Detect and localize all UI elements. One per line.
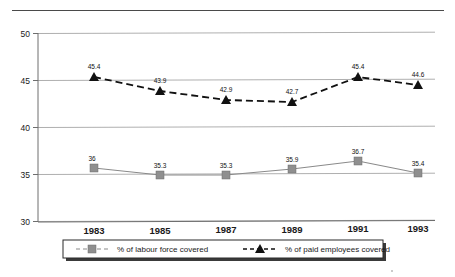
series-paid-marker-1983 [89, 72, 99, 81]
gridline-40 [38, 126, 435, 127]
x-tick-label-1983: 1983 [83, 225, 104, 236]
series-paid-employees-line [94, 77, 418, 102]
y-tick-label-45: 45 [21, 76, 31, 86]
series-labour-label-1991: 36.7 [352, 148, 365, 155]
gridlines-group [38, 32, 435, 221]
series-paid-label-1989: 42.7 [286, 88, 299, 95]
series-labour-marker-1991 [354, 157, 362, 165]
gridline-50 [38, 32, 435, 33]
series-paid-employees: 45.4 43.9 42.9 42.7 45.4 44.6 [88, 63, 425, 106]
legend-square-marker-icon [88, 245, 96, 253]
series-paid-marker-1993 [413, 80, 423, 89]
line-chart-canvas: 50 45 40 35 30 1983 1985 1987 1989 1991 … [0, 0, 455, 277]
y-tick-labels-group: 50 45 40 35 30 [21, 29, 31, 227]
chart-figure: 50 45 40 35 30 1983 1985 1987 1989 1991 … [0, 0, 455, 277]
series-labour-marker-1985 [156, 171, 164, 179]
y-tick-label-35: 35 [21, 170, 31, 180]
series-paid-label-1993: 44.6 [412, 71, 425, 78]
series-labour-marker-1993 [414, 169, 422, 177]
chart-legend: % of labour force covered % of paid empl… [63, 240, 390, 261]
legend-label-labour-force: % of labour force covered [117, 245, 208, 254]
x-tick-label-1989: 1989 [281, 224, 302, 235]
y-tick-label-40: 40 [21, 123, 31, 133]
series-labour-marker-1989 [288, 165, 296, 173]
y-tick-label-50: 50 [21, 29, 31, 39]
series-labour-label-1987: 35.3 [220, 162, 233, 169]
series-labour-label-1993: 35.4 [412, 160, 425, 167]
series-labour-marker-1987 [222, 171, 230, 179]
header-divider-rule [12, 10, 444, 11]
series-paid-label-1991: 45.4 [352, 63, 365, 70]
x-tick-label-1993: 1993 [407, 223, 428, 234]
y-tick-label-30: 30 [21, 217, 31, 227]
series-paid-label-1983: 45.4 [88, 63, 101, 70]
x-tick-label-1985: 1985 [149, 225, 171, 236]
legend-label-paid-employees: % of paid employees covered [285, 245, 390, 254]
series-labour-force-line [94, 161, 418, 175]
x-tick-label-1987: 1987 [215, 224, 236, 235]
series-labour-label-1985: 35.3 [154, 162, 167, 169]
x-tick-label-1991: 1991 [347, 223, 369, 234]
legend-item-labour-force[interactable]: % of labour force covered [76, 245, 208, 254]
x-tick-labels-group: 1983 1985 1987 1989 1991 1993 [83, 223, 428, 236]
series-labour-label-1989: 35.9 [286, 156, 299, 163]
page-artifact-dot [391, 270, 393, 272]
series-labour-label-1983: 36 [88, 155, 96, 162]
series-paid-marker-1985 [155, 86, 165, 95]
series-labour-marker-1983 [90, 164, 98, 172]
series-paid-marker-1991 [353, 72, 363, 81]
series-paid-label-1985: 43.9 [154, 77, 167, 84]
series-paid-label-1987: 42.9 [220, 86, 233, 93]
